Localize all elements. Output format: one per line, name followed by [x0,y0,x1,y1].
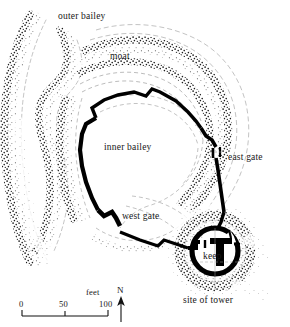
scale-tick-0: 0 [19,300,23,309]
label-west-gate: west gate [122,212,159,222]
scale-unit-label: feet [86,288,100,297]
label-site-of-tower: site of tower [183,296,233,306]
label-inner-bailey: inner bailey [104,143,152,153]
label-keep: keep [203,252,222,262]
label-east-gate: east gate [228,153,263,163]
compass-north-label: N [117,286,124,295]
scale-tick-50: 50 [59,300,68,309]
scale-tick-100: 100 [99,300,112,309]
label-moat: moat [110,52,130,62]
plan-drawing [0,0,290,327]
label-outer-bailey: outer bailey [58,12,106,22]
castle-plan-map: outer bailey moat inner bailey east gate… [0,0,290,327]
